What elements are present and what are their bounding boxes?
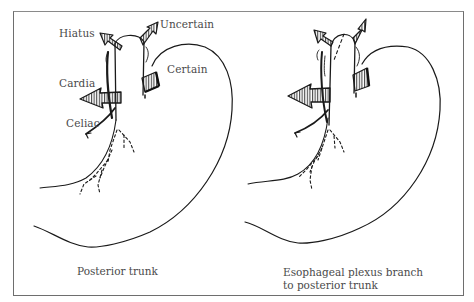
- label-certain: Certain: [167, 63, 208, 75]
- arrow-uncertain: [140, 22, 158, 45]
- stomach-lesser-curvature: [248, 118, 328, 184]
- stomach-lesser-curvature: [40, 120, 116, 188]
- uncertain-branch: [146, 47, 148, 62]
- arrow-uncertain-right: [353, 19, 366, 44]
- arrow-hiatus: [100, 33, 122, 50]
- caption-esophageal-plexus: Esophageal plexus branch to posterior tr…: [283, 266, 423, 292]
- celiac-nerve: [295, 110, 328, 133]
- esophagus-left-wall: [329, 46, 331, 125]
- posterior-vagal-trunk: [107, 52, 112, 118]
- caption-line-2: to posterior trunk: [283, 279, 423, 292]
- label-cardia: Cardia: [59, 77, 95, 89]
- panel-esophageal-plexus-branch: [245, 34, 440, 243]
- caption-posterior-trunk: Posterior trunk: [77, 265, 158, 278]
- arrow-certain: [142, 72, 159, 92]
- label-celiac: Celiac: [66, 117, 100, 129]
- label-hiatus: Hiatus: [59, 27, 95, 39]
- label-uncertain: Uncertain: [160, 18, 214, 30]
- caption-text: Posterior trunk: [77, 265, 158, 277]
- arrow-hiatus-right: [314, 30, 333, 46]
- arrow-certain-right: [353, 68, 369, 91]
- arrow-cardia: [80, 88, 121, 108]
- stomach-greater-curvature: [245, 46, 440, 243]
- esophagus-top: [115, 35, 144, 44]
- caption-line-1: Esophageal plexus branch: [283, 266, 423, 279]
- dashed-nerve-branches: [80, 130, 134, 194]
- anatomical-illustration: [0, 0, 474, 302]
- dashed-nerve-branches: [298, 130, 344, 190]
